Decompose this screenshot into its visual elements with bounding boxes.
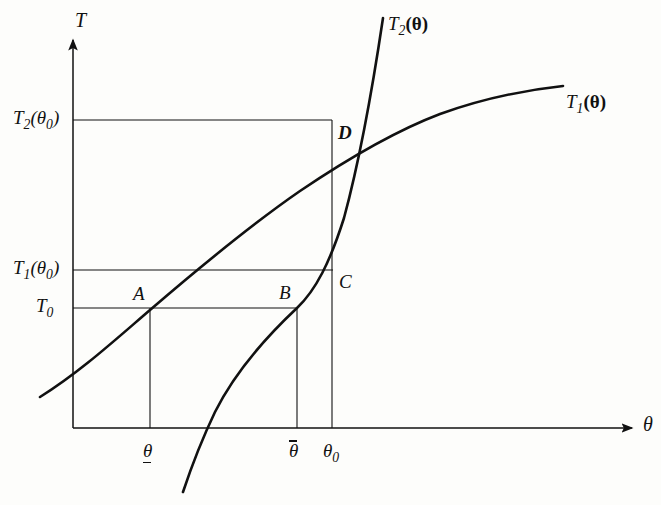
curve-label-t2: T2(θ) <box>388 14 428 37</box>
point-label-b: B <box>279 283 291 302</box>
figure-root: T θ T2(θ0) T1(θ0) T0 θ θ θ0 T2(θ) T1(θ) … <box>0 0 661 505</box>
x-axis-label: θ <box>643 414 653 434</box>
y-tick-t1theta0-base: T <box>13 257 24 278</box>
x-tick-theta-upper-glyph: θ <box>289 440 298 460</box>
curve-label-t2-base: T <box>388 13 399 34</box>
y-tick-t2theta0-paren-sub: 0 <box>46 117 53 132</box>
y-tick-t1theta0: T1(θ0) <box>13 258 59 281</box>
y-tick-t2theta0-paren-end: ) <box>53 107 59 128</box>
x-tick-theta-upper: θ <box>289 440 298 460</box>
y-tick-t2theta0-base: T <box>13 107 24 128</box>
y-tick-t2theta0-paren: (θ <box>30 107 46 128</box>
curve-label-t1: T1(θ) <box>566 92 606 115</box>
x-tick-theta-lower-glyph: θ <box>143 441 152 463</box>
curve-t2-path <box>183 18 383 492</box>
y-tick-t1theta0-paren-end: ) <box>53 257 59 278</box>
x-tick-theta-zero: θ0 <box>323 441 339 464</box>
x-tick-theta-zero-sub: 0 <box>332 450 339 465</box>
curve-label-t1-arg: (θ) <box>583 91 606 112</box>
point-label-a: A <box>133 284 145 303</box>
curve-label-t1-base: T <box>566 91 577 112</box>
y-tick-t0-base: T <box>36 295 47 316</box>
point-label-d: D <box>338 123 352 142</box>
y-tick-t0-sub: 0 <box>47 305 54 320</box>
y-axis-label: T <box>75 10 86 30</box>
y-tick-t1theta0-paren-sub: 0 <box>46 267 53 282</box>
y-tick-t0: T0 <box>36 296 53 319</box>
y-tick-t1theta0-paren: (θ <box>30 257 46 278</box>
y-tick-t2theta0: T2(θ0) <box>13 108 59 131</box>
curve-label-t2-arg: (θ) <box>405 13 428 34</box>
curve-t1-path <box>40 86 563 397</box>
x-tick-theta-lower: θ <box>143 441 152 463</box>
x-tick-theta-zero-glyph: θ <box>323 440 332 461</box>
point-label-c: C <box>339 272 352 291</box>
diagram-canvas <box>0 0 661 505</box>
